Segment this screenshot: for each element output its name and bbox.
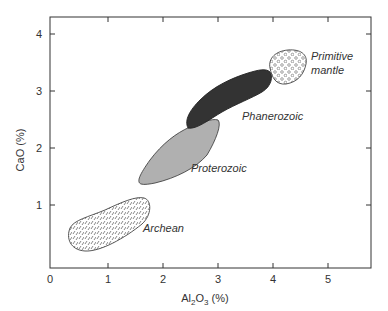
- x-tick-label-1: 1: [105, 273, 111, 285]
- y-tick-label-1: 1: [36, 199, 42, 211]
- x-tick-label-3: 3: [215, 273, 221, 285]
- y-tick-label-3: 3: [36, 85, 42, 97]
- x-axis-label: Al2O3 (%): [181, 292, 228, 307]
- y-tick-label-4: 4: [36, 28, 42, 40]
- label-archean: Archean: [142, 222, 184, 234]
- label-primitive-mantle-line1: Primitive: [311, 50, 353, 62]
- label-phanerozoic: Phanerozoic: [242, 110, 304, 122]
- region-archean: [69, 198, 150, 251]
- y-tick-label-2: 2: [36, 142, 42, 154]
- region-primitive-mantle: [270, 50, 307, 84]
- y-axis-label: CaO (%): [14, 129, 26, 172]
- region-proterozoic: [139, 120, 219, 185]
- x-tick-label-2: 2: [160, 273, 166, 285]
- x-tick-label-5: 5: [325, 273, 331, 285]
- chart: 0 1 2 3 4 5 4 3 2 1 Al2O3 (%) CaO (%) Ar…: [0, 0, 388, 311]
- label-proterozoic: Proterozoic: [191, 162, 247, 174]
- label-primitive-mantle-line2: mantle: [311, 64, 344, 76]
- x-tick-label-0: 0: [47, 273, 53, 285]
- x-tick-label-4: 4: [270, 273, 276, 285]
